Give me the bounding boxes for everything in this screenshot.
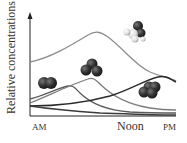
- y-axis-label: Relative concentrations: [4, 1, 19, 114]
- formaldehyde-molecule-icon: [124, 21, 146, 43]
- triatomic-molecule-mid-icon: [81, 59, 103, 77]
- x-tick-am: AM: [32, 122, 47, 132]
- curve-formaldehyde: [30, 32, 176, 81]
- arrow-up-icon: [28, 12, 33, 19]
- chart: [0, 0, 187, 143]
- y-axis: [28, 12, 33, 116]
- x-tick-pm: PM: [163, 122, 176, 132]
- ozone-molecule-icon: [139, 82, 161, 99]
- diatomic-molecule-icon: [38, 77, 57, 89]
- x-tick-noon: Noon: [117, 119, 144, 134]
